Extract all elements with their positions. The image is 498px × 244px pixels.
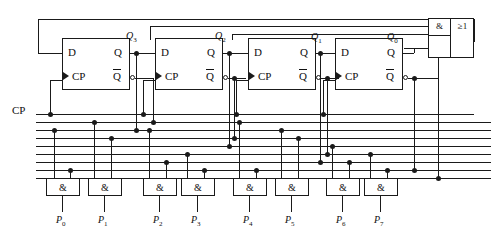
flipflop-q1-d-label: D <box>254 46 262 58</box>
and-p6-dot-a <box>330 144 335 149</box>
feedback-gate-block: & ≥1 <box>428 18 474 58</box>
and-p5-input-b <box>298 138 299 178</box>
gate-input-3 <box>414 48 428 49</box>
feeder-q1bar-dot <box>325 152 330 157</box>
gate-feed-drop-b <box>232 34 233 40</box>
feeder-q3bar <box>153 88 154 122</box>
wire-q1bar-out <box>321 78 339 79</box>
bus-line-1 <box>36 122 491 123</box>
flipflop-q3-qbar-label: Q <box>113 70 121 82</box>
and-gate-p5: & <box>275 178 309 196</box>
output-label-p2: P2 <box>153 214 163 228</box>
feedback-wire-right-drop <box>474 19 475 42</box>
and-p4-output-wire <box>249 196 250 212</box>
and-p1-input-a <box>94 122 95 178</box>
feeder-q2 <box>229 53 230 146</box>
and-gate-inner-line <box>429 35 450 36</box>
output-label-p5: P5 <box>285 214 295 228</box>
bus-line-7 <box>36 170 491 171</box>
clock-junction-ff4 <box>321 112 326 117</box>
gate-feed-line-a <box>150 26 414 27</box>
and-p7-dot-b <box>385 168 390 173</box>
and-p3-dot-b <box>202 168 207 173</box>
gate-feed-drop-a <box>150 26 151 40</box>
bus-line-6 <box>36 162 491 163</box>
clock-input-label: CP <box>12 104 25 116</box>
feeder-q0bar-dot <box>436 176 441 181</box>
feeder-q2bar-dot <box>232 136 237 141</box>
feeder-q3bar-dot <box>151 120 156 125</box>
label-q1: Q1 <box>311 31 322 45</box>
feeder-q0bar <box>438 78 439 178</box>
flipflop-q2-d-label: D <box>161 46 169 58</box>
and-p2-dot-b <box>164 160 169 165</box>
clock-junction-ff2 <box>141 112 146 117</box>
and-p5-output-wire <box>291 196 292 212</box>
feeder-q0-dot <box>412 168 417 173</box>
feedback-wire-left-drop <box>38 19 39 53</box>
flipflop-q1-qbar-label: Q <box>299 70 307 82</box>
and-p5-dot-b <box>296 136 301 141</box>
bus-line-5 <box>36 154 491 155</box>
wire-q0bar-up <box>438 58 439 78</box>
circuit-diagram: & ≥1 D Q CP Q Q3 D Q CP Q Q2 D Q CP Q Q1… <box>0 0 498 244</box>
clock-tap-ff2-h <box>143 80 156 81</box>
and-p0-output-wire <box>62 196 63 212</box>
and-p1-input-b <box>111 138 112 178</box>
flipflop-q2-q-label: Q <box>207 46 215 58</box>
flipflop-q0-qbar-label: Q <box>386 70 394 82</box>
and-p2-dot-a <box>147 128 152 133</box>
and-p1-dot-a <box>92 120 97 125</box>
flipflop-q0-q-label: Q <box>387 46 395 58</box>
clock-tap-ff4 <box>323 80 324 114</box>
flipflop-q3-clock-triangle <box>63 72 69 80</box>
flipflop-q2-clock-triangle <box>156 72 162 80</box>
feeder-q1bar <box>327 78 328 154</box>
bus-line-2 <box>36 130 491 131</box>
bus-line-3 <box>36 138 491 139</box>
clock-tap-ff4-h <box>323 80 336 81</box>
feeder-q0 <box>414 78 415 170</box>
flipflop-q0-cp-label: CP <box>345 70 358 82</box>
wire-q0-up-to-gate <box>414 48 415 53</box>
and-p4-dot-a <box>237 120 242 125</box>
and-gate-p4: & <box>233 178 267 196</box>
output-label-p3: P3 <box>191 214 201 228</box>
feeder-q1-dot <box>318 160 323 165</box>
feedback-wire-to-d3 <box>38 53 62 54</box>
or-gate-symbol: ≥1 <box>451 21 474 31</box>
output-label-p7: P7 <box>374 214 384 228</box>
clock-tap-ff3 <box>236 80 237 114</box>
flipflop-q1-cp-label: CP <box>258 70 271 82</box>
and-p3-input-a <box>187 154 188 178</box>
and-p1-dot-b <box>109 136 114 141</box>
and-p5-input-a <box>281 130 282 178</box>
gate-feed-line-c <box>404 48 414 49</box>
clock-tap-ff2 <box>143 80 144 114</box>
and-p5-dot-a <box>279 128 284 133</box>
clock-tap-ff1-h <box>50 80 63 81</box>
and-p6-dot-b <box>347 160 352 165</box>
flipflop-q2-cp-label: CP <box>165 70 178 82</box>
and-p2-output-wire <box>159 196 160 212</box>
label-q2: Q2 <box>215 30 226 44</box>
and-p6-input-a <box>332 146 333 178</box>
and-p4-dot-b <box>254 168 259 173</box>
and-p6-output-wire <box>342 196 343 212</box>
feedback-wire-top <box>38 19 474 20</box>
and-p1-output-wire <box>104 196 105 212</box>
wire-q2bar-out <box>228 78 246 79</box>
wire-q0-out <box>403 53 414 54</box>
output-label-p0: P0 <box>56 214 66 228</box>
feeder-q3 <box>136 53 137 130</box>
and-gate-p3: & <box>181 178 215 196</box>
feeder-q2bar <box>234 78 235 138</box>
and-gate-p0: & <box>46 178 80 196</box>
and-gate-p6: & <box>326 178 360 196</box>
and-p0-input-a <box>54 130 55 178</box>
flipflop-q3-cp-label: CP <box>72 70 85 82</box>
flipflop-q3-q-label: Q <box>114 46 122 58</box>
label-q0: Q0 <box>387 31 398 45</box>
clock-junction-ff1 <box>48 112 53 117</box>
gate-input-1 <box>414 26 428 27</box>
